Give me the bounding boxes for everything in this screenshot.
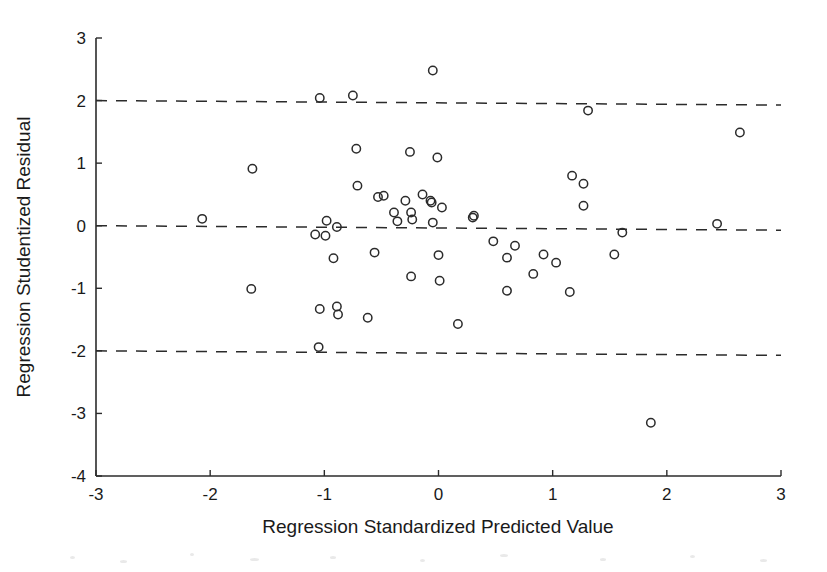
data-point-marker xyxy=(248,165,256,173)
data-point-marker xyxy=(247,285,255,293)
x-tick-label: -2 xyxy=(203,485,218,504)
data-point-marker xyxy=(329,254,337,262)
data-point-marker xyxy=(429,66,437,74)
data-point-marker xyxy=(322,217,330,225)
data-point-marker xyxy=(407,272,415,280)
data-point-marker xyxy=(647,419,655,427)
data-points-group xyxy=(198,66,744,427)
data-point-marker xyxy=(390,208,398,216)
data-point-marker xyxy=(503,253,511,261)
data-point-marker xyxy=(489,237,497,245)
data-point-marker xyxy=(584,106,592,114)
y-axis-ticks: -4-3-2-10123 xyxy=(71,29,102,486)
lower-limit-line xyxy=(96,351,781,356)
data-point-marker xyxy=(429,218,437,226)
data-point-marker xyxy=(333,302,341,310)
data-point-marker xyxy=(568,171,576,179)
data-point-marker xyxy=(566,288,574,296)
x-axis-ticks: -3-2-10123 xyxy=(88,470,785,504)
x-axis-title: Regression Standardized Predicted Value xyxy=(262,516,613,537)
x-tick-label: 0 xyxy=(434,485,443,504)
data-point-marker xyxy=(418,190,426,198)
x-tick-label: 3 xyxy=(776,485,785,504)
data-point-marker xyxy=(380,191,388,199)
y-tick-label: -3 xyxy=(71,404,86,423)
data-point-marker xyxy=(401,196,409,204)
y-tick-label: -1 xyxy=(71,279,86,298)
y-tick-label: 2 xyxy=(77,92,86,111)
data-point-marker xyxy=(334,310,342,318)
x-tick-label: -1 xyxy=(317,485,332,504)
data-point-marker xyxy=(316,94,324,102)
y-tick-label: 1 xyxy=(77,154,86,173)
data-point-marker xyxy=(370,248,378,256)
y-tick-label: 3 xyxy=(77,29,86,48)
data-point-marker xyxy=(511,242,519,250)
data-point-marker xyxy=(454,320,462,328)
data-point-marker xyxy=(736,128,744,136)
data-point-marker xyxy=(539,250,547,258)
data-point-marker xyxy=(503,287,511,295)
data-point-marker xyxy=(352,145,360,153)
y-tick-label: -4 xyxy=(71,467,86,486)
reference-lines-group xyxy=(96,101,781,356)
data-point-marker xyxy=(579,180,587,188)
data-point-marker xyxy=(529,270,537,278)
data-point-marker xyxy=(314,343,322,351)
data-point-marker xyxy=(438,203,446,211)
data-point-marker xyxy=(406,148,414,156)
y-axis-title: Regression Studentized Residual xyxy=(13,117,34,398)
zero-line xyxy=(96,226,781,231)
x-tick-label: 1 xyxy=(548,485,557,504)
data-point-marker xyxy=(433,153,441,161)
y-tick-label: 0 xyxy=(77,217,86,236)
data-point-marker xyxy=(552,258,560,266)
data-point-marker xyxy=(353,181,361,189)
data-point-marker xyxy=(364,313,372,321)
data-point-marker xyxy=(311,230,319,238)
data-point-marker xyxy=(579,201,587,209)
data-point-marker xyxy=(713,220,721,228)
data-point-marker xyxy=(349,91,357,99)
data-point-marker xyxy=(321,232,329,240)
data-point-marker xyxy=(435,277,443,285)
data-point-marker xyxy=(393,217,401,225)
data-point-marker xyxy=(434,251,442,259)
upper-limit-line xyxy=(96,101,781,106)
scatterplot-figure: -3-2-10123 -4-3-2-10123 Regression Stand… xyxy=(0,0,827,572)
data-point-marker xyxy=(374,193,382,201)
data-point-marker xyxy=(198,215,206,223)
data-point-marker xyxy=(610,250,618,258)
x-tick-label: 2 xyxy=(662,485,671,504)
x-tick-label: -3 xyxy=(88,485,103,504)
plot-canvas: -3-2-10123 -4-3-2-10123 Regression Stand… xyxy=(0,0,827,572)
y-tick-label: -2 xyxy=(71,342,86,361)
data-point-marker xyxy=(316,305,324,313)
